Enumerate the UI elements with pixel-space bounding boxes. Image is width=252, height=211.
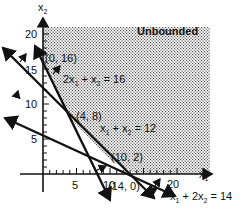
tick-label-x5: 5	[72, 179, 78, 191]
vertex-label-4-8: (4, 8)	[76, 110, 102, 122]
tick-label-y15: 15	[25, 64, 37, 76]
unbounded-label: Unbounded	[137, 25, 198, 37]
vertex-label-0-16: (0, 16)	[45, 52, 77, 64]
constraint-label-x1-2x2-14: x1 + 2x2 = 14	[170, 190, 232, 204]
vertex-label-10-2: (10, 2)	[111, 151, 143, 163]
lp-diagram: x2 x1 20 15 10 5 5 10 20 Unbounded (0, 1…	[0, 0, 252, 211]
tick-label-y10: 10	[25, 98, 37, 110]
tick-label-y5: 5	[31, 133, 37, 145]
vertex-label-14-0: (14, 0)	[108, 180, 140, 192]
tick-label-y20: 20	[25, 28, 37, 40]
tick-label-x20: 20	[167, 178, 179, 190]
y-axis-label: x2	[38, 1, 48, 15]
constraint-label-2x1-x2-16: 2x1 + x2 = 16	[63, 73, 125, 87]
